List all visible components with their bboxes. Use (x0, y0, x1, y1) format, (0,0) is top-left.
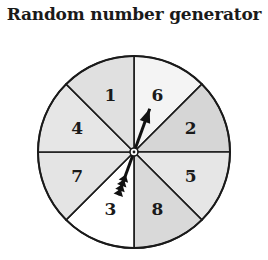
sector-label-8: 8 (152, 199, 164, 219)
sector-label-3: 3 (105, 199, 117, 219)
sector-label-1: 1 (105, 85, 117, 105)
sector-label-7: 7 (71, 166, 83, 186)
spinner-pivot-dot (133, 151, 136, 154)
sector-label-2: 2 (185, 118, 197, 138)
spinner-wheel: 62583741 (0, 0, 268, 260)
sector-label-5: 5 (185, 166, 197, 186)
sector-label-4: 4 (71, 118, 83, 138)
sector-label-6: 6 (152, 85, 164, 105)
